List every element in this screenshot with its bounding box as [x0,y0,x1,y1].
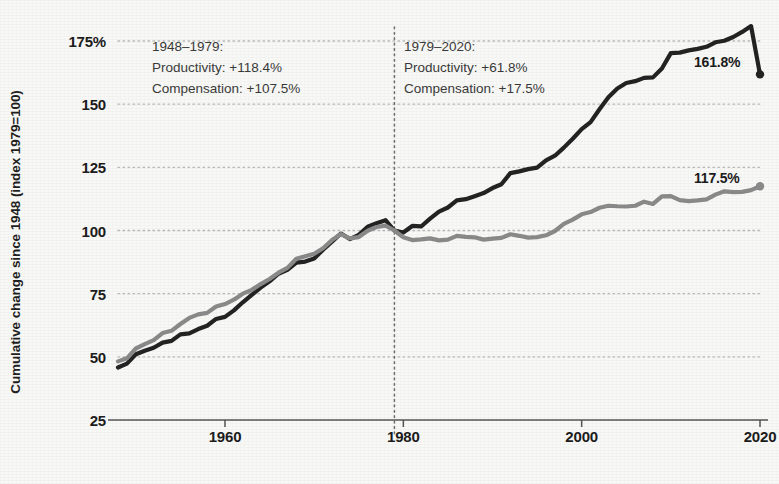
annotation-right-compensation: Compensation: +17.5% [404,78,545,99]
annotation-right-period: 1979–2020: [404,36,545,57]
endpoint-label-compensation: 117.5% [694,170,740,186]
series-endpoint-productivity [756,70,764,78]
annotation-left-period: 1948–1979: [152,36,300,57]
annotation-left-compensation: Compensation: +107.5% [152,78,300,99]
endpoint-label-productivity: 161.8% [694,54,740,70]
annotation-period-1979-2020: 1979–2020: Productivity: +61.8% Compensa… [404,36,545,99]
annotation-period-1948-1979: 1948–1979: Productivity: +118.4% Compens… [152,36,300,99]
annotation-left-productivity: Productivity: +118.4% [152,57,300,78]
series-endpoint-compensation [756,182,764,190]
annotation-right-productivity: Productivity: +61.8% [404,57,545,78]
chart-container: Cumulative change since 1948 (index 1979… [0,0,779,484]
plot-area [0,0,779,484]
